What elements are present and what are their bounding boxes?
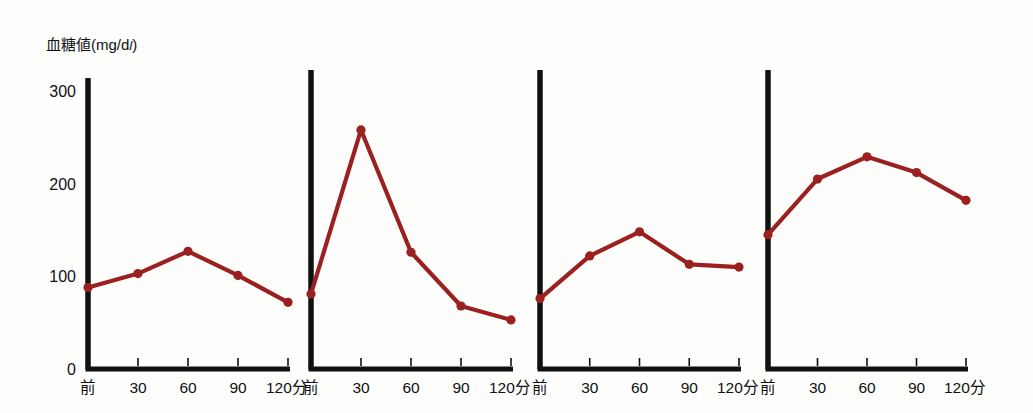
x-tick-label-1-3: 90 bbox=[229, 379, 247, 396]
data-point-panel-4-90 bbox=[912, 168, 921, 177]
y-tick-label-3: 0 bbox=[67, 361, 76, 378]
y-tick-label-2: 100 bbox=[49, 268, 76, 285]
data-point-panel-2-前 bbox=[306, 289, 315, 298]
x-tick-label-2-1: 30 bbox=[352, 379, 370, 396]
blood-glucose-figure: 血糖値(mg/dl)前306090120分3002001000前30609012… bbox=[0, 0, 1033, 413]
x-tick-label-4-1: 30 bbox=[809, 379, 827, 396]
x-tick-label-3-3: 90 bbox=[681, 379, 699, 396]
x-tick-label-1-0: 前 bbox=[80, 379, 96, 396]
data-point-panel-3-30 bbox=[585, 251, 594, 260]
chart-panel-2: 前306090120分 bbox=[303, 70, 531, 396]
x-tick-label-3-1: 30 bbox=[581, 379, 599, 396]
chart-panel-3: 前306090120分 bbox=[532, 70, 759, 396]
x-tick-label-3-4: 120分 bbox=[717, 379, 759, 396]
x-tick-label-3-2: 60 bbox=[631, 379, 649, 396]
data-point-panel-2-90 bbox=[456, 301, 465, 310]
figure-title-text: 血糖値(mg/dl) bbox=[46, 36, 137, 53]
x-tick-label-4-0: 前 bbox=[760, 379, 776, 396]
data-point-panel-2-30 bbox=[356, 125, 365, 134]
data-point-panel-1-30 bbox=[133, 269, 142, 278]
data-point-panel-3-60 bbox=[635, 227, 644, 236]
figure-title-main: 血糖値(mg/d bbox=[46, 36, 129, 53]
x-tick-label-2-0: 前 bbox=[303, 379, 319, 396]
data-point-panel-3-前 bbox=[535, 294, 544, 303]
series-line-panel-3 bbox=[540, 232, 739, 299]
x-tick-label-1-4: 120分 bbox=[266, 379, 308, 396]
chart-panel-4: 前306090120分 bbox=[760, 70, 986, 396]
data-point-panel-2-120分 bbox=[506, 315, 515, 324]
figure-svg: 血糖値(mg/dl)前306090120分3002001000前30609012… bbox=[0, 0, 1033, 413]
chart-panel-1: 前306090120分3002001000 bbox=[49, 78, 308, 396]
data-point-panel-2-60 bbox=[406, 248, 415, 257]
data-point-panel-1-60 bbox=[183, 247, 192, 256]
figure-title-tail: ) bbox=[132, 36, 137, 53]
x-tick-label-4-2: 60 bbox=[858, 379, 876, 396]
series-line-panel-2 bbox=[311, 130, 511, 320]
data-point-panel-4-120分 bbox=[961, 196, 970, 205]
data-point-panel-3-90 bbox=[685, 260, 694, 269]
x-tick-label-2-2: 60 bbox=[402, 379, 420, 396]
x-tick-label-4-3: 90 bbox=[908, 379, 926, 396]
data-point-panel-4-前 bbox=[763, 230, 772, 239]
x-tick-label-2-4: 120分 bbox=[489, 379, 531, 396]
data-point-panel-1-90 bbox=[233, 271, 242, 280]
data-point-panel-4-30 bbox=[813, 174, 822, 183]
data-point-panel-4-60 bbox=[862, 152, 871, 161]
x-tick-label-4-4: 120分 bbox=[944, 379, 986, 396]
figure-title: 血糖値(mg/dl) bbox=[46, 36, 137, 53]
data-point-panel-1-120分 bbox=[283, 298, 292, 307]
x-tick-label-1-2: 60 bbox=[179, 379, 197, 396]
x-tick-label-3-0: 前 bbox=[532, 379, 548, 396]
y-tick-label-1: 200 bbox=[49, 176, 76, 193]
x-tick-label-1-1: 30 bbox=[129, 379, 147, 396]
data-point-panel-3-120分 bbox=[734, 262, 743, 271]
y-tick-label-0: 300 bbox=[49, 83, 76, 100]
series-line-panel-1 bbox=[88, 251, 288, 302]
data-point-panel-1-前 bbox=[83, 283, 92, 292]
series-line-panel-4 bbox=[768, 157, 966, 235]
x-tick-label-2-3: 90 bbox=[452, 379, 470, 396]
